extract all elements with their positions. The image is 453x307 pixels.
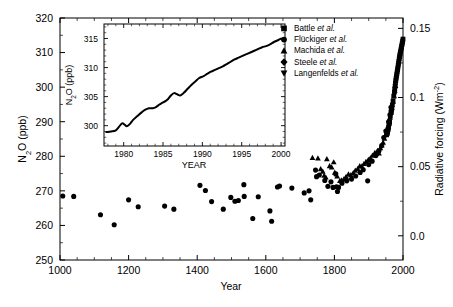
data-point	[328, 179, 333, 184]
data-point	[242, 194, 247, 199]
inset-y-tick-label: 300	[84, 121, 98, 131]
data-point	[162, 204, 167, 209]
legend-label: Langenfelds et al.	[294, 69, 359, 78]
x-tick-label: 1200	[117, 264, 141, 276]
figure-root: 1000120014001600180020002502602702802903…	[0, 0, 453, 307]
x-tick-label: 1400	[186, 264, 210, 276]
data-point	[385, 131, 390, 136]
data-point	[336, 185, 341, 190]
legend-label: Flückiger et al.	[294, 35, 347, 44]
y-left-tick-label: 300	[35, 81, 53, 93]
inset-x-tick-label: 1995	[232, 149, 251, 159]
legend-label: Steele et al.	[294, 58, 337, 67]
legend-label: Machida et al.	[294, 46, 345, 55]
data-point	[256, 194, 261, 199]
data-point	[277, 183, 282, 188]
data-point	[389, 109, 394, 114]
data-point	[386, 127, 391, 132]
inset-x-tick-label: 1985	[154, 149, 173, 159]
x-tick-label: 2000	[391, 264, 415, 276]
y-right-tick-label: 0.15	[410, 22, 431, 34]
data-point	[236, 198, 241, 203]
data-point	[391, 99, 396, 104]
data-point	[269, 219, 274, 224]
data-point	[71, 194, 76, 199]
y-right-tick-label: 0.05	[410, 160, 431, 172]
data-point	[349, 177, 354, 182]
data-point	[388, 114, 393, 119]
y-left-tick-label: 270	[35, 185, 53, 197]
y-right-tick-label: 0.0	[410, 230, 425, 242]
data-point	[98, 212, 103, 217]
data-point	[197, 183, 202, 188]
data-point	[112, 222, 117, 227]
y-left-tick-label: 320	[35, 12, 53, 24]
data-point	[221, 207, 226, 212]
data-point	[390, 103, 395, 108]
data-point	[302, 190, 307, 195]
y-left-tick-label: 250	[35, 254, 53, 266]
data-point	[391, 94, 396, 99]
data-point	[228, 195, 233, 200]
y-left-tick-label: 290	[35, 116, 53, 128]
x-axis-title: Year	[220, 280, 242, 292]
data-point	[365, 178, 370, 183]
data-point	[136, 204, 141, 209]
inset-y-tick-label: 305	[84, 92, 98, 102]
data-point	[60, 193, 65, 198]
data-point	[203, 188, 208, 193]
legend-label: Battle et al.	[294, 24, 335, 33]
data-point	[267, 208, 272, 213]
y-right-axis-title: Radiative forcing (Wm-2)	[432, 82, 446, 195]
data-point	[250, 216, 255, 221]
y-left-tick-label: 310	[35, 46, 53, 58]
data-point	[387, 121, 392, 126]
data-point	[313, 168, 318, 173]
data-point	[289, 186, 294, 191]
legend-marker-circle	[281, 37, 287, 43]
inset-x-tick-label: 1980	[114, 149, 133, 159]
y-right-tick-label: 0.1	[410, 91, 425, 103]
data-point	[241, 182, 246, 187]
data-point	[209, 199, 214, 204]
n2o-chart: 1000120014001600180020002502602702802903…	[0, 0, 453, 307]
data-point	[126, 197, 131, 202]
inset-y-tick-label: 315	[84, 34, 98, 44]
figure-background	[0, 0, 453, 307]
inset-x-tick-label: 1990	[193, 149, 212, 159]
data-point	[401, 37, 406, 42]
x-tick-label: 1600	[254, 264, 278, 276]
data-point	[171, 207, 176, 212]
data-point	[308, 197, 313, 202]
inset-x-axis-title: YEAR	[182, 160, 207, 170]
data-point	[306, 188, 311, 193]
inset-x-tick-label: 2000	[272, 149, 291, 159]
data-point	[325, 184, 330, 189]
inset-y-tick-label: 310	[84, 63, 98, 73]
legend-marker-square	[281, 26, 287, 32]
y-left-tick-label: 280	[35, 150, 53, 162]
y-left-tick-label: 260	[35, 219, 53, 231]
x-tick-label: 1800	[323, 264, 347, 276]
